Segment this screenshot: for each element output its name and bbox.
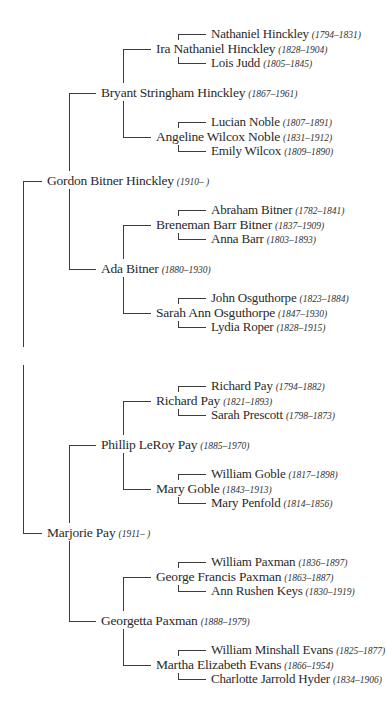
person-dates: (1817–1898): [289, 470, 338, 480]
person-dates: (1888–1979): [201, 617, 250, 627]
person-dates: (1798–1873): [286, 411, 335, 421]
person-name: Richard Pay: [211, 378, 273, 393]
pedigree-chart: Nathaniel Hinckley(1794–1831)Ira Nathani…: [0, 0, 387, 728]
person-name: Mary Penfold: [211, 495, 280, 510]
connector-line: [123, 225, 124, 259]
connector-line: [123, 665, 151, 666]
connector-line: [178, 679, 206, 680]
person-ann-rushen-keys: Ann Rushen Keys(1830–1919): [211, 583, 355, 599]
connector-line: [178, 239, 206, 240]
person-name: William Goble: [211, 466, 286, 481]
person-name: William Paxman: [211, 554, 295, 569]
connector-line: [69, 93, 70, 171]
connector-line: [178, 327, 206, 328]
person-mary-penfold: Mary Penfold(1814–1856): [211, 495, 333, 511]
person-name: John Osguthorpe: [211, 290, 296, 305]
connector-line: [178, 210, 179, 216]
person-dates: (1867–1961): [248, 89, 297, 99]
person-dates: (1831–1912): [283, 133, 332, 143]
person-lois-judd: Lois Judd(1805–1845): [211, 55, 312, 71]
connector-line: [178, 122, 179, 128]
connector-line: [178, 474, 179, 480]
connector-line: [23, 181, 24, 347]
person-name: Phillip LeRoy Pay: [101, 437, 197, 452]
person-dates: (1809–1890): [284, 147, 333, 157]
person-john-osguthorpe: John Osguthorpe(1823–1884): [211, 290, 349, 306]
person-richard-pay-1794: Richard Pay(1794–1882): [211, 378, 325, 394]
person-bryant-stringham-hinckley: Bryant Stringham Hinckley(1867–1961): [101, 85, 297, 101]
connector-line: [69, 445, 96, 446]
connector-line: [178, 474, 206, 475]
connector-line: [178, 57, 179, 63]
person-marjorie-pay: Marjorie Pay(1911– ): [47, 525, 150, 541]
connector-line: [23, 181, 42, 182]
person-name: Ada Bitner: [101, 261, 159, 276]
person-name: Richard Pay: [156, 393, 220, 408]
connector-line: [178, 298, 206, 299]
person-name: Ira Nathaniel Hinckley: [156, 41, 275, 56]
person-william-goble: William Goble(1817–1898): [211, 466, 338, 482]
person-lydia-roper: Lydia Roper(1828–1915): [211, 319, 326, 335]
person-name: Sarah Ann Osguthorpe: [156, 305, 275, 320]
connector-line: [123, 137, 151, 138]
person-sarah-prescott: Sarah Prescott(1798–1873): [211, 407, 335, 423]
person-name: Anna Barr: [211, 231, 264, 246]
connector-line: [178, 145, 179, 151]
person-anna-barr: Anna Barr(1803–1893): [211, 231, 316, 247]
connector-line: [69, 189, 70, 269]
connector-line: [178, 650, 179, 656]
connector-line: [123, 401, 124, 435]
person-dates: (1830–1919): [306, 587, 355, 597]
connector-line: [123, 629, 124, 665]
person-phillip-leroy-pay: Phillip LeRoy Pay(1885–1970): [101, 437, 249, 453]
person-gordon-bitner-hinckley: Gordon Bitner Hinckley(1910– ): [47, 173, 209, 189]
connector-line: [178, 585, 179, 591]
person-georgetta-paxman: Georgetta Paxman(1888–1979): [101, 613, 250, 629]
person-nathaniel-hinckley: Nathaniel Hinckley(1794–1831): [211, 26, 361, 42]
person-name: Mary Goble: [156, 481, 220, 496]
person-dates: (1885–1970): [200, 441, 249, 451]
connector-line: [178, 34, 179, 40]
person-dates: (1836–1897): [298, 558, 347, 568]
person-dates: (1834–1906): [333, 675, 382, 685]
person-lucian-noble: Lucian Noble(1807–1891): [211, 114, 332, 130]
connector-line: [123, 101, 124, 137]
connector-line: [178, 591, 206, 592]
connector-line: [23, 533, 42, 534]
person-dates: (1821–1893): [223, 397, 272, 407]
person-name: William Minshall Evans: [211, 642, 333, 657]
connector-line: [123, 277, 124, 313]
person-name: Lucian Noble: [211, 114, 280, 129]
person-dates: (1782–1841): [295, 206, 344, 216]
connector-line: [178, 34, 206, 35]
person-name: Lydia Roper: [211, 319, 273, 334]
connector-line: [69, 541, 70, 621]
connector-line: [178, 63, 206, 64]
connector-line: [123, 313, 151, 314]
person-dates: (1807–1891): [283, 118, 332, 128]
connector-line: [178, 321, 179, 327]
person-dates: (1828–1915): [276, 323, 325, 333]
person-name: Angeline Wilcox Noble: [156, 129, 280, 144]
person-dates: (1814–1856): [283, 499, 332, 509]
connector-line: [178, 386, 206, 387]
person-name: Abraham Bitner: [211, 202, 292, 217]
person-name: Ann Rushen Keys: [211, 583, 303, 598]
connector-line: [69, 621, 96, 622]
connector-line: [178, 386, 179, 392]
connector-line: [123, 577, 151, 578]
connector-line: [178, 673, 179, 679]
connector-line: [178, 562, 206, 563]
person-name: Charlotte Jarrold Hyder: [211, 671, 330, 686]
person-name: Lois Judd: [211, 55, 260, 70]
person-ada-bitner: Ada Bitner(1880–1930): [101, 261, 211, 277]
person-dates: (1843–1913): [223, 485, 272, 495]
connector-line: [178, 650, 206, 651]
connector-line: [178, 122, 206, 123]
person-dates: (1863–1887): [284, 573, 333, 583]
connector-line: [178, 151, 206, 152]
connector-line: [178, 415, 206, 416]
connector-line: [69, 269, 96, 270]
connector-line: [178, 210, 206, 211]
connector-line: [123, 49, 151, 50]
